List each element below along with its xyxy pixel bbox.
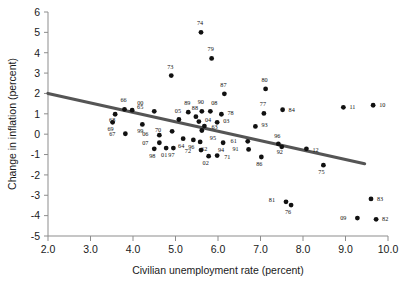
data-point (289, 203, 294, 208)
x-tick-label: 2.0 (41, 243, 56, 255)
data-point-label: 64 (178, 142, 184, 149)
data-point (171, 146, 176, 151)
data-point (284, 199, 289, 204)
y-tick-label: 2 (34, 87, 40, 99)
x-tick-label: 3.0 (83, 243, 98, 255)
data-point (122, 107, 127, 112)
data-point (371, 103, 376, 108)
data-point-label: 07 (142, 139, 148, 146)
x-tick-label: 10.0 (378, 243, 399, 255)
x-axis-ticks (48, 236, 388, 241)
data-point-label: 82 (382, 215, 388, 222)
data-point-label: 67 (109, 130, 115, 137)
data-point-label: 12 (312, 146, 318, 153)
data-point-label: 78 (227, 109, 233, 116)
data-point-label: 88 (192, 104, 198, 111)
data-point-label: 00 (137, 99, 143, 106)
y-axis-ticks (44, 12, 48, 236)
data-point (304, 146, 309, 151)
x-tick-label: 6.0 (211, 243, 226, 255)
data-point (152, 146, 157, 151)
data-point-label: 03 (223, 117, 229, 124)
data-point (186, 110, 191, 115)
y-axis-title: Change in inflation (percent) (6, 58, 18, 190)
x-tick-label: 7.0 (253, 243, 268, 255)
data-point-label: 66 (120, 96, 126, 103)
data-point-label: 79 (208, 45, 214, 52)
data-point (170, 129, 175, 134)
data-point (222, 91, 227, 96)
data-point-label: 77 (260, 100, 266, 107)
data-point-label: 83 (377, 195, 383, 202)
data-point (321, 163, 326, 168)
data-point-label: 97 (168, 151, 174, 158)
data-point (157, 140, 162, 145)
data-point-label: 05 (175, 107, 181, 114)
data-point-label: 06 (142, 130, 148, 137)
data-point (262, 111, 267, 116)
data-point-label: 72 (185, 147, 191, 154)
data-point-label: 73 (167, 63, 173, 70)
data-point (206, 154, 211, 159)
data-point (202, 124, 207, 129)
data-point-label: 90 (198, 98, 204, 105)
data-point (123, 131, 128, 136)
data-point (259, 155, 264, 160)
scatter-chart: 7479738780101184776566006889900878880504… (0, 0, 409, 290)
y-tick-label: 0 (34, 128, 40, 140)
x-axis-tick-labels: 2.03.04.05.06.07.08.09.010.0 (41, 243, 399, 255)
y-tick-label: -5 (31, 230, 40, 242)
data-point-label: 11 (349, 103, 355, 110)
data-point (198, 140, 203, 145)
data-point (263, 87, 268, 92)
x-tick-label: 4.0 (126, 243, 141, 255)
data-point (199, 30, 204, 35)
data-point-label: 09 (340, 214, 346, 221)
data-point-label: 91 (232, 145, 238, 152)
data-point (215, 153, 220, 158)
x-tick-label: 8.0 (296, 243, 311, 255)
data-point (253, 124, 258, 129)
data-point (374, 217, 379, 222)
data-point-label: 81 (269, 196, 275, 203)
data-point-label: 61 (231, 137, 237, 144)
data-point-label: 86 (256, 160, 262, 167)
y-tick-label: 6 (34, 6, 40, 18)
data-point-label: 74 (197, 19, 203, 26)
data-point-label: 02 (203, 159, 209, 166)
data-point (209, 56, 214, 61)
data-point-label: 08 (211, 99, 217, 106)
data-point (219, 112, 224, 117)
data-point (196, 119, 201, 124)
data-point (157, 133, 162, 138)
data-point (355, 216, 360, 221)
data-point (199, 109, 204, 114)
data-point (194, 114, 199, 119)
data-point-label: 98 (149, 152, 155, 159)
data-point-label: 80 (262, 76, 268, 83)
data-point-label: 76 (285, 208, 291, 215)
data-point (245, 139, 250, 144)
y-tick-label: 3 (34, 67, 40, 79)
data-point-label: 92 (277, 148, 283, 155)
data-point (246, 147, 251, 152)
data-point-label: 89 (184, 99, 190, 106)
data-point-label: 01 (161, 151, 167, 158)
data-point-label: 93 (261, 121, 267, 128)
data-point (221, 140, 226, 145)
data-point-label: 95 (210, 134, 216, 141)
data-point (152, 109, 157, 114)
data-point (341, 105, 346, 110)
y-tick-label: -1 (31, 148, 40, 160)
regression-trendline (48, 93, 365, 163)
data-point-label: 96 (274, 132, 280, 139)
data-point-label: 63 (211, 123, 217, 130)
data-point (208, 109, 213, 114)
data-point (169, 73, 174, 78)
x-tick-label: 5.0 (168, 243, 183, 255)
data-point-label: 71 (224, 153, 230, 160)
data-point (199, 148, 204, 153)
data-point-label: 70 (155, 126, 161, 133)
data-point (164, 146, 169, 151)
y-tick-label: 1 (34, 108, 40, 120)
